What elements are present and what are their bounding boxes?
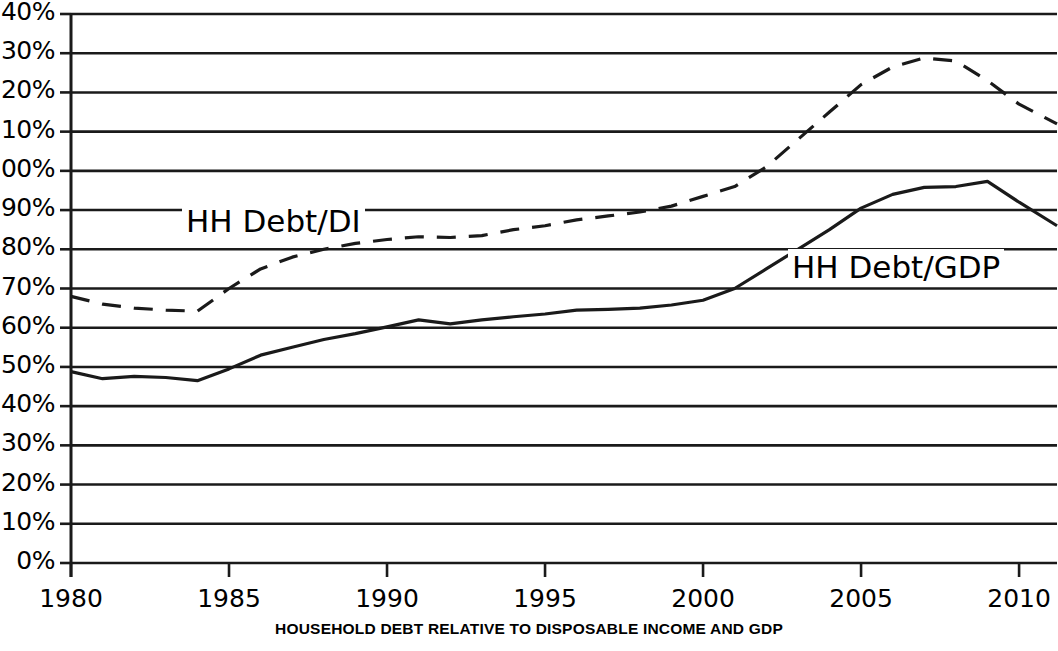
x-tick-label: 1990	[327, 584, 447, 613]
x-tick-label: 1995	[485, 584, 605, 613]
x-tick-label: 2010	[959, 584, 1058, 613]
x-tick-label: 1985	[169, 584, 289, 613]
y-tick-label: 60%	[1, 311, 55, 340]
y-tick-label: 30%	[1, 428, 55, 457]
y-tick-label: 70%	[1, 272, 55, 301]
y-tick-label: 20%	[1, 468, 55, 497]
chart-plot-area	[0, 0, 1058, 651]
x-tick-label: 2000	[643, 584, 763, 613]
y-tick-label: 90%	[1, 193, 55, 222]
gridlines	[71, 14, 1057, 563]
series-label-hh-debt-di: HH Debt/DI	[182, 203, 365, 239]
y-tick-label: 120%	[0, 75, 55, 104]
y-tick-label: 0%	[16, 546, 55, 575]
y-tick-label: 130%	[0, 36, 55, 65]
y-tick-label: 40%	[1, 389, 55, 418]
y-tick-label: 100%	[0, 154, 55, 183]
chart-root: 0%10%20%30%40%50%60%70%80%90%100%110%120…	[0, 0, 1058, 651]
y-tick-label: 80%	[1, 232, 55, 261]
x-tick-label: 1980	[11, 584, 131, 613]
y-axis	[60, 13, 71, 577]
x-axis	[71, 563, 1019, 577]
series-label-hh-debt-gdp: HH Debt/GDP	[788, 249, 1004, 285]
y-tick-label: 140%	[0, 0, 55, 26]
y-tick-label: 50%	[1, 350, 55, 379]
y-tick-label: 110%	[0, 115, 55, 144]
y-tick-label: 10%	[1, 507, 55, 536]
chart-caption: HOUSEHOLD DEBT RELATIVE TO DISPOSABLE IN…	[0, 620, 1058, 638]
x-tick-label: 2005	[801, 584, 921, 613]
